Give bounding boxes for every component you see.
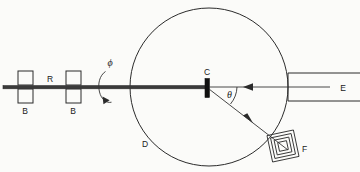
diagram-canvas: B B R ϕ C θ D E F xyxy=(0,0,360,172)
source-label: E xyxy=(340,83,346,93)
rotating-rod xyxy=(3,86,207,89)
rotation-arrow-head xyxy=(103,97,110,105)
detector-label: F xyxy=(302,144,307,154)
target-label: C xyxy=(204,67,210,77)
incident-beam xyxy=(209,83,294,91)
rod-label: R xyxy=(47,74,53,84)
apparatus-diagram: B B R ϕ C θ D E F xyxy=(0,0,360,172)
scattered-beam xyxy=(209,89,288,150)
scattered-beam-arrow-head xyxy=(243,113,253,123)
bearing-left-label: B xyxy=(22,106,28,116)
beam-source xyxy=(288,73,360,101)
bearing-right-lower-block xyxy=(66,89,81,103)
chamber-label: D xyxy=(142,139,148,149)
target-marker xyxy=(205,79,209,98)
bearing-right-label: B xyxy=(70,106,76,116)
bearing-right-upper-block xyxy=(66,71,81,85)
rod-shaft xyxy=(3,86,207,89)
incident-beam-arrow-head xyxy=(243,83,253,91)
rotation-angle-label: ϕ xyxy=(107,57,112,68)
scattering-angle-label: θ xyxy=(227,89,232,100)
bearing-left-lower-block xyxy=(18,89,33,103)
bearing-left-upper-block xyxy=(18,71,33,85)
